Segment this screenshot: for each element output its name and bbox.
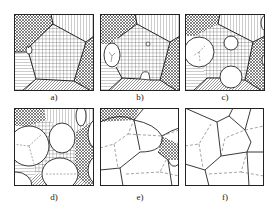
panel-label-f: f) <box>205 192 245 202</box>
microstructure-c-graphic <box>185 14 265 91</box>
microstructure-f-graphic <box>185 108 264 186</box>
microstructure-e-graphic <box>100 108 179 186</box>
microstructure-a-graphic <box>14 14 94 91</box>
panel-d <box>14 108 94 186</box>
microstructure-b-graphic <box>100 14 180 91</box>
panel-label-d: d) <box>34 192 74 202</box>
panel-label-e: e) <box>120 192 160 202</box>
panel-e <box>100 108 179 186</box>
panel-label-b: b) <box>120 92 160 102</box>
panel-label-a: a) <box>34 92 74 102</box>
panel-f <box>185 108 264 186</box>
microstructure-d-graphic <box>14 108 94 186</box>
panel-a <box>14 14 94 91</box>
panel-b <box>100 14 180 91</box>
panel-c <box>185 14 265 91</box>
panel-label-c: c) <box>205 92 245 102</box>
